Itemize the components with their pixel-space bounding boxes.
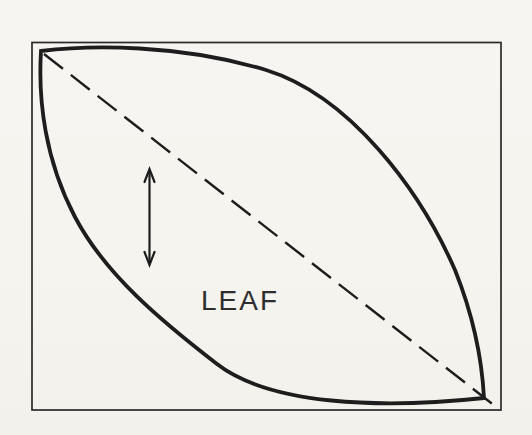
diagonal-dashed-line (44, 54, 495, 406)
double-headed-arrow-icon (145, 169, 155, 265)
leaf-diagram: LEAF (0, 0, 532, 435)
figure-canvas: LEAF (0, 0, 532, 435)
leaf-label: LEAF (201, 285, 279, 316)
